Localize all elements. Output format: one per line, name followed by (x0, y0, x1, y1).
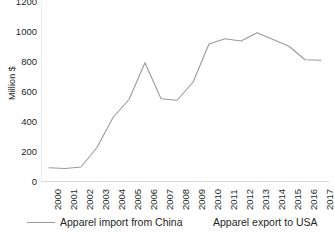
x-axis-tick-label: 2011 (229, 180, 239, 210)
legend-item-apparel-export-to-usa: Apparel export to USA (208, 216, 317, 228)
x-axis-tick-label: 2008 (181, 180, 191, 210)
x-axis-tick-label: 2010 (213, 180, 223, 210)
y-axis-tick-label: 1000 (16, 27, 37, 37)
legend-label: Apparel export to USA (213, 216, 317, 228)
x-axis-tick-label: 2007 (165, 180, 175, 210)
x-axis-tick-label: 2016 (309, 180, 319, 210)
y-axis-tick-label: 600 (21, 87, 37, 97)
x-axis-tick-label: 2013 (261, 180, 271, 210)
legend-label: Apparel import from China (60, 216, 183, 228)
plot-area (41, 2, 329, 182)
series-line-apparel-import-from-china (41, 2, 329, 182)
x-axis-tick-label: 2012 (245, 180, 255, 210)
x-axis-tick-label: 2009 (197, 180, 207, 210)
y-axis-tick-label: 0 (32, 177, 37, 187)
y-axis-tick-label: 1200 (16, 0, 37, 7)
legend-item-apparel-import-from-china: Apparel import from China (27, 216, 183, 228)
x-axis-tick-label: 2014 (277, 180, 287, 210)
x-axis-tick-label: 2002 (85, 180, 95, 210)
x-axis-tick-label: 2017 (325, 180, 335, 210)
x-axis-tick-label: 2003 (101, 180, 111, 210)
x-axis-tick-label: 2004 (117, 180, 127, 210)
y-axis-tick-label: 200 (21, 147, 37, 157)
chart-legend: Apparel import from China Apparel export… (0, 215, 332, 233)
y-axis-tick-label: 800 (21, 57, 37, 67)
x-axis-tick-label: 2000 (53, 180, 63, 210)
x-axis-tick-labels: 2000200120022003200420052006200720082009… (41, 182, 329, 212)
x-axis-tick-label: 2006 (149, 180, 159, 210)
x-axis-tick-label: 2001 (69, 180, 79, 210)
y-axis-tick-label: 400 (21, 117, 37, 127)
x-axis-tick-label: 2005 (133, 180, 143, 210)
x-axis-tick-label: 2015 (293, 180, 303, 210)
legend-line-swatch-icon (27, 222, 55, 223)
y-axis-tick-labels: 020040060080010001200 (0, 0, 40, 195)
